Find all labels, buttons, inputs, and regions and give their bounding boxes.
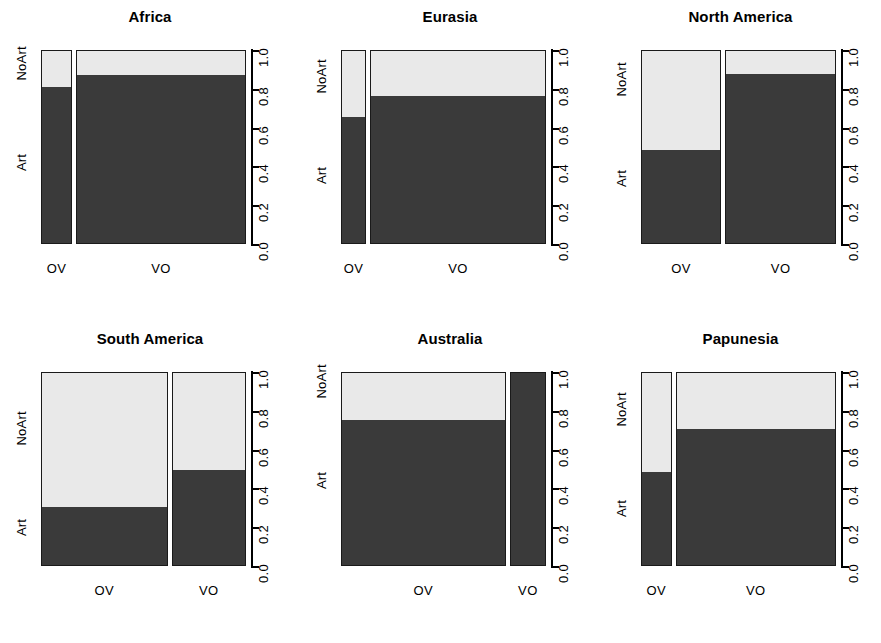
y-category-label-noart: NoArt bbox=[14, 51, 29, 81]
x-axis-label-vo: VO bbox=[746, 583, 766, 598]
y-category-label-art: Art bbox=[614, 493, 629, 523]
y-axis-spine bbox=[841, 49, 843, 245]
y-axis-tick-label: 0.8 bbox=[556, 87, 571, 106]
plot-area bbox=[641, 50, 836, 244]
y-axis-spine bbox=[841, 371, 843, 567]
y-axis-tick-label: 1.0 bbox=[846, 370, 861, 389]
y-category-label-noart: NoArt bbox=[614, 396, 629, 426]
y-category-label-noart: NoArt bbox=[314, 63, 329, 93]
segment-art bbox=[42, 507, 167, 565]
y-axis: 0.00.20.40.60.81.0 bbox=[551, 372, 552, 566]
y-axis-tick-label: 0.4 bbox=[556, 486, 571, 505]
y-axis-tick-label: 0.0 bbox=[256, 564, 271, 583]
x-axis-label-ov: OV bbox=[47, 261, 67, 276]
x-axis-label-vo: VO bbox=[151, 261, 171, 276]
x-axis-label-ov: OV bbox=[344, 261, 364, 276]
y-category-label-noart: NoArt bbox=[14, 415, 29, 445]
panel-eurasia: Eurasia0.00.20.40.60.81.0NoArtArtOVVO bbox=[300, 0, 600, 322]
y-axis-tick-label: 0.2 bbox=[846, 203, 861, 222]
y-axis-tick-label: 1.0 bbox=[556, 48, 571, 67]
mosaic-bar-vo bbox=[676, 372, 836, 566]
x-axis-label-ov: OV bbox=[95, 583, 115, 598]
segment-noart bbox=[642, 51, 720, 152]
y-category-label-art: Art bbox=[314, 466, 329, 496]
y-axis: 0.00.20.40.60.81.0 bbox=[251, 372, 252, 566]
y-axis-tick-label: 1.0 bbox=[256, 48, 271, 67]
y-axis-tick-label: 0.4 bbox=[256, 164, 271, 183]
mosaic-bar-ov bbox=[341, 372, 506, 566]
mosaic-bar-ov bbox=[41, 50, 72, 244]
y-axis-tick-label: 1.0 bbox=[256, 370, 271, 389]
y-axis-tick-label: 0.2 bbox=[556, 525, 571, 544]
plot-area bbox=[341, 372, 546, 566]
x-axis-label-vo: VO bbox=[771, 261, 791, 276]
x-axis-label-vo: VO bbox=[518, 583, 538, 598]
y-axis-tick-label: 0.4 bbox=[846, 164, 861, 183]
segment-noart bbox=[677, 373, 835, 431]
y-axis-tick-label: 0.8 bbox=[846, 409, 861, 428]
panel-title: Papunesia bbox=[600, 330, 881, 347]
segment-noart bbox=[642, 373, 671, 474]
y-category-label-noart: NoArt bbox=[314, 369, 329, 399]
y-axis-spine bbox=[251, 49, 253, 245]
segment-noart bbox=[77, 51, 245, 77]
segment-art bbox=[642, 150, 720, 243]
x-axis-label-vo: VO bbox=[199, 583, 219, 598]
y-axis-tick-label: 0.8 bbox=[256, 87, 271, 106]
mosaic-bar-vo bbox=[370, 50, 546, 244]
panel-north-america: North America0.00.20.40.60.81.0NoArtArtO… bbox=[600, 0, 881, 322]
y-axis-tick-label: 0.0 bbox=[556, 242, 571, 261]
y-axis-tick-label: 0.2 bbox=[846, 525, 861, 544]
y-axis-tick-label: 0.4 bbox=[256, 486, 271, 505]
segment-noart bbox=[371, 51, 545, 98]
segment-art bbox=[371, 96, 545, 243]
panel-south-america: South America0.00.20.40.60.81.0NoArtArtO… bbox=[0, 322, 300, 643]
segment-noart bbox=[726, 51, 835, 76]
segment-art bbox=[726, 74, 835, 243]
segment-art bbox=[342, 420, 505, 565]
mosaic-bar-vo bbox=[725, 50, 836, 244]
mosaic-bar-ov bbox=[41, 372, 168, 566]
x-axis-label-ov: OV bbox=[671, 261, 691, 276]
panel-title: South America bbox=[0, 330, 300, 347]
mosaic-bar-vo bbox=[76, 50, 246, 244]
y-axis: 0.00.20.40.60.81.0 bbox=[841, 50, 842, 244]
segment-noart bbox=[42, 51, 71, 89]
y-axis-tick-label: 0.0 bbox=[846, 242, 861, 261]
segment-art bbox=[42, 87, 71, 243]
y-axis-tick-label: 0.6 bbox=[256, 126, 271, 145]
panel-title: North America bbox=[600, 8, 881, 25]
y-axis-tick-label: 0.4 bbox=[556, 164, 571, 183]
segment-art bbox=[642, 472, 671, 565]
plot-area bbox=[41, 50, 246, 244]
y-axis-tick-label: 0.6 bbox=[556, 448, 571, 467]
y-axis-tick-label: 0.6 bbox=[556, 126, 571, 145]
y-axis: 0.00.20.40.60.81.0 bbox=[251, 50, 252, 244]
y-axis-tick-label: 0.8 bbox=[556, 409, 571, 428]
segment-art bbox=[677, 429, 835, 565]
plot-area bbox=[641, 372, 836, 566]
y-axis-spine bbox=[251, 371, 253, 567]
y-axis-tick-label: 0.6 bbox=[846, 448, 861, 467]
mosaic-bar-vo bbox=[510, 372, 546, 566]
y-axis-spine bbox=[551, 371, 553, 567]
x-axis-label-ov: OV bbox=[414, 583, 434, 598]
panel-title: Eurasia bbox=[300, 8, 600, 25]
mosaic-bar-ov bbox=[341, 50, 366, 244]
panel-papunesia: Papunesia0.00.20.40.60.81.0NoArtArtOVVO bbox=[600, 322, 881, 643]
panel-australia: Australia0.00.20.40.60.81.0NoArtArtOVVO bbox=[300, 322, 600, 643]
y-axis-tick-label: 0.2 bbox=[256, 203, 271, 222]
y-axis-tick-label: 0.2 bbox=[556, 203, 571, 222]
y-category-label-art: Art bbox=[14, 512, 29, 542]
x-axis-label-vo: VO bbox=[448, 261, 468, 276]
plot-area bbox=[41, 372, 246, 566]
segment-art bbox=[173, 470, 245, 565]
y-axis-tick-label: 0.8 bbox=[256, 409, 271, 428]
x-axis-label-ov: OV bbox=[646, 583, 666, 598]
segment-noart bbox=[42, 373, 167, 509]
mosaic-bar-ov bbox=[641, 372, 672, 566]
y-axis-tick-label: 0.8 bbox=[846, 87, 861, 106]
y-axis-spine bbox=[551, 49, 553, 245]
mosaic-bar-ov bbox=[641, 50, 721, 244]
segment-noart bbox=[173, 373, 245, 472]
